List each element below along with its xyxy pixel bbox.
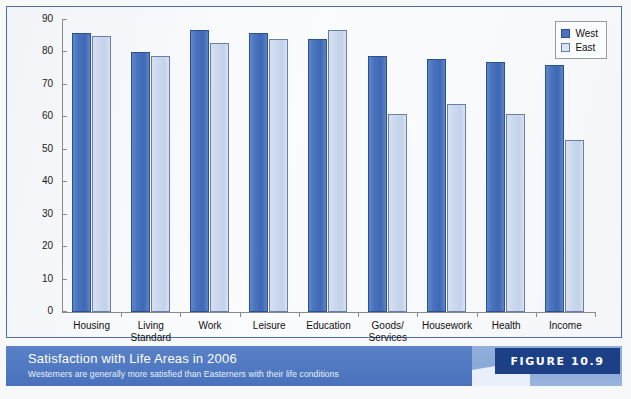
bar-west (427, 59, 446, 312)
y-tick-label: 10 (42, 273, 53, 284)
bar-group (536, 20, 595, 312)
bar-group (417, 20, 476, 312)
bar-west (308, 39, 327, 312)
bar-west (486, 62, 505, 312)
caption-band: Satisfaction with Life Areas in 2006 Wes… (6, 346, 622, 386)
source-note (8, 390, 620, 398)
y-tick-label: 90 (42, 13, 53, 24)
bar-east (92, 36, 111, 312)
x-axis-line (62, 312, 595, 313)
caption-subtitle: Westerners are generally more satisfied … (28, 369, 339, 379)
bar-west (190, 30, 209, 312)
x-axis-tick (299, 312, 300, 317)
figure-container: Percent Satisfied 0102030405060708090 Ho… (0, 0, 631, 399)
bar-west (131, 52, 150, 312)
plot-area (62, 20, 595, 312)
legend-item-east: East (561, 40, 598, 54)
x-axis-label: Leisure (240, 320, 299, 332)
x-axis-label: Living Standard (121, 320, 180, 343)
y-tick-label: 40 (42, 175, 53, 186)
legend-label-west: West (575, 28, 598, 39)
x-axis-label: Education (299, 320, 358, 332)
x-axis-tick (595, 312, 596, 317)
x-axis-tick (358, 312, 359, 317)
bar-west (545, 65, 564, 312)
bar-group (180, 20, 239, 312)
x-axis-label: Housework (417, 320, 476, 332)
y-tick-label: 80 (42, 45, 53, 56)
x-axis-label: Income (536, 320, 595, 332)
x-axis-tick (180, 312, 181, 317)
bar-east (151, 56, 170, 312)
bar-east (506, 114, 525, 312)
x-axis-label: Goods/ Services (358, 320, 417, 343)
bar-group (358, 20, 417, 312)
bar-east (210, 43, 229, 312)
x-axis-tick (536, 312, 537, 317)
y-tick-label: 70 (42, 78, 53, 89)
legend-label-east: East (575, 42, 595, 53)
bar-east (269, 39, 288, 312)
y-tick-label: 50 (42, 143, 53, 154)
x-axis-tick (417, 312, 418, 317)
bar-group (240, 20, 299, 312)
bar-east (447, 104, 466, 312)
legend-item-west: West (561, 26, 598, 40)
bar-east (388, 114, 407, 312)
x-axis-tick (477, 312, 478, 317)
bar-group (121, 20, 180, 312)
bar-group (299, 20, 358, 312)
x-axis-label: Health (477, 320, 536, 332)
x-axis-tick (240, 312, 241, 317)
figure-number-badge: FIGURE 10.9 (495, 348, 620, 374)
x-axis-label: Work (180, 320, 239, 332)
y-tick-label: 60 (42, 110, 53, 121)
bar-group (62, 20, 121, 312)
x-axis-label: Housing (62, 320, 121, 332)
x-axis-tick (121, 312, 122, 317)
chart-legend: West East (555, 21, 607, 59)
bar-east (565, 140, 584, 312)
legend-swatch-east (561, 43, 570, 52)
y-tick-label: 30 (42, 208, 53, 219)
y-tick-label: 20 (42, 240, 53, 251)
chart-plot-panel: Percent Satisfied 0102030405060708090 Ho… (6, 6, 622, 338)
bar-group (477, 20, 536, 312)
y-tick-label: 0 (47, 305, 53, 316)
bar-east (328, 30, 347, 312)
legend-swatch-west (561, 29, 570, 38)
figure-number-label: FIGURE 10.9 (495, 348, 620, 374)
caption-title: Satisfaction with Life Areas in 2006 (28, 351, 237, 366)
bar-west (249, 33, 268, 312)
bar-west (72, 33, 91, 312)
bar-west (368, 56, 387, 312)
